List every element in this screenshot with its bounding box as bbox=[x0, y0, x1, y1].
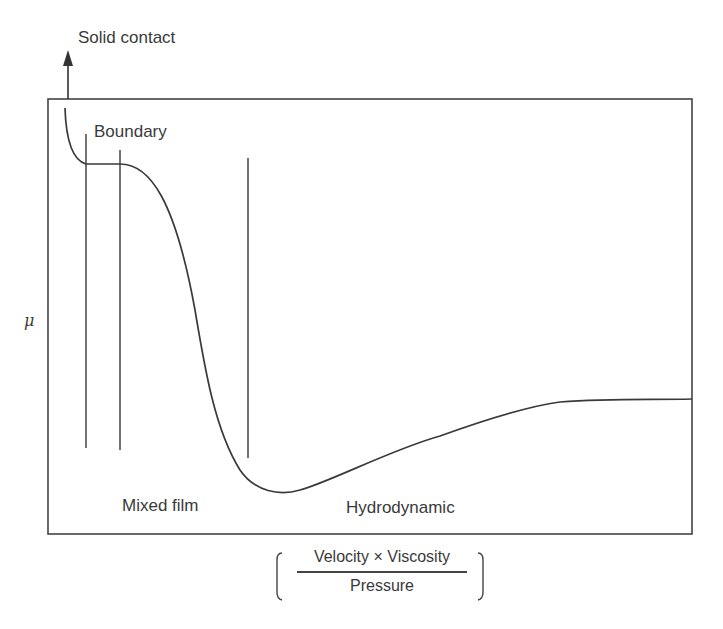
fraction-bar bbox=[297, 571, 467, 573]
friction-curve bbox=[65, 108, 692, 493]
x-axis-denominator: Pressure bbox=[282, 575, 482, 597]
boundary-label: Boundary bbox=[94, 122, 167, 142]
x-axis-label: Velocity × Viscosity Pressure bbox=[282, 546, 482, 597]
x-axis-numerator: Velocity × Viscosity bbox=[282, 546, 482, 568]
hydrodynamic-label: Hydrodynamic bbox=[346, 498, 455, 518]
plot-frame bbox=[48, 99, 692, 534]
mixed-film-label: Mixed film bbox=[122, 496, 199, 516]
solid-contact-label: Solid contact bbox=[78, 28, 175, 48]
stribeck-diagram bbox=[0, 0, 723, 629]
arrow-head-icon bbox=[63, 50, 73, 66]
y-axis-label: μ bbox=[24, 311, 34, 330]
